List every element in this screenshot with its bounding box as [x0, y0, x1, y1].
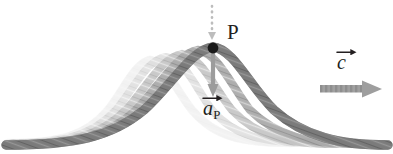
motion-indicator-dotted-arrow [208, 6, 216, 40]
acceleration-vector-label: aP [203, 98, 220, 121]
wave-pulse-figure: P aP c [0, 0, 393, 154]
point-p-label: P [227, 22, 239, 43]
wave-speed-symbol: c [337, 51, 346, 73]
acceleration-subscript: P [213, 108, 220, 122]
vectors-layer [0, 0, 393, 154]
point-p-marker [208, 43, 219, 54]
wave-speed-vector-arrow [320, 81, 382, 98]
acceleration-vector-arrow [208, 50, 219, 97]
wave-speed-vector-label: c [337, 52, 346, 72]
acceleration-symbol: a [203, 97, 213, 119]
